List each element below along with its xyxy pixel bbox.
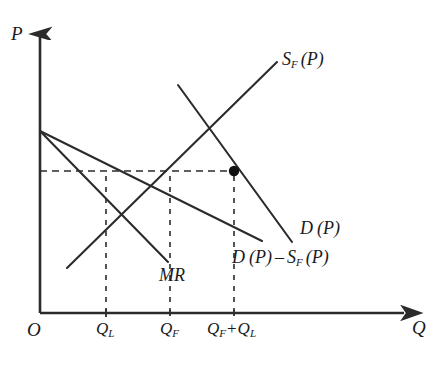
x-axis-label: Q [412,318,426,337]
tick-label-q-l-sub: L [108,327,114,339]
residual-label-base1: D [232,247,245,267]
tick-label-q-l: QL [96,320,114,339]
demand-label-base: D [300,218,313,238]
tick-label-q-l-base: Q [96,319,108,338]
marginal-revenue-curve-label: MR [159,266,185,284]
demand-curve-label: D(P) [300,219,340,237]
supply-foreign-curve [67,62,277,268]
origin-label: O [27,320,41,339]
tick-label-sum-operator: + [226,319,238,338]
diagram-canvas [0,0,434,366]
residual-demand-curve-label: D(P)–SF(P) [232,248,329,268]
residual-label-arg2: (P) [303,247,329,267]
axis-group [40,34,404,313]
equilibrium-point-marker [229,166,239,176]
economics-diagram: P Q O QL QF QF+QL SF(P) D(P) D(P)–SF(P) … [0,0,434,366]
tick-label-q-f: QF [160,320,179,339]
tick-label-q-f-sub: F [172,327,179,339]
demand-curve [178,85,292,242]
residual-label-operator: – [272,247,287,267]
tick-label-q-f-base: Q [160,319,172,338]
y-axis-label: P [11,24,23,43]
supply-foreign-curve-label: SF(P) [282,50,324,70]
supply-label-sub: F [291,58,298,70]
tick-label-sum-sub2: L [250,327,256,339]
tick-label-q-f-plus-q-l: QF+QL [207,320,256,339]
tick-label-sum-base1: Q [207,319,219,338]
residual-label-sub2: F [296,256,303,268]
supply-label-base: S [282,49,291,69]
residual-demand-curve [40,131,262,241]
curve-group [40,62,292,268]
residual-label-base2: S [287,247,296,267]
demand-label-arg: (P) [313,218,340,238]
marginal-revenue-curve [40,131,168,262]
supply-label-arg: (P) [298,49,324,69]
dashed-guides [40,171,234,311]
tick-label-sum-sub1: F [219,327,226,339]
residual-label-arg1: (P) [245,247,272,267]
tick-label-sum-base2: Q [238,319,250,338]
